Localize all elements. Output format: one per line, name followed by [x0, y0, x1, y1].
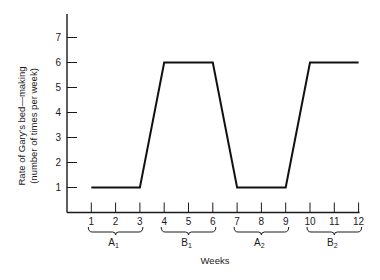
x-axis-title: Weeks	[201, 255, 230, 266]
x-tick-label: 6	[210, 216, 216, 227]
series-polyline	[91, 63, 358, 188]
y-axis-title-line2: (number of times per week)	[28, 68, 39, 184]
y-tick-label: 6	[55, 57, 61, 68]
phase-brace	[234, 227, 289, 235]
x-tick-label: 3	[137, 216, 143, 227]
x-tick-label: 7	[234, 216, 240, 227]
phase-brace	[307, 227, 362, 235]
x-tick-label: 11	[329, 216, 340, 227]
x-tick-label: 1	[89, 216, 95, 227]
abab-line-chart: 1234567 123456789101112 A1B1A2B2 Weeks R…	[0, 0, 380, 280]
y-tick-label: 3	[55, 132, 61, 143]
y-tick-label: 7	[55, 32, 61, 43]
phase-label: A1	[108, 237, 119, 249]
x-tick-label: 2	[113, 216, 119, 227]
x-axis: 123456789101112	[67, 203, 365, 227]
x-tick-label: 9	[283, 216, 289, 227]
phase-brackets: A1B1A2B2	[88, 227, 361, 249]
y-tick-label: 5	[55, 82, 61, 93]
x-tick-label: 12	[353, 216, 365, 227]
x-tick-label: 10	[304, 216, 316, 227]
phase-brace	[88, 227, 143, 235]
phase-label: B2	[327, 237, 338, 249]
y-axis-title-line1: Rate of Gary's bed—making	[16, 66, 27, 185]
data-series-line	[91, 63, 358, 188]
phase-label: A2	[254, 237, 265, 249]
y-tick-label: 1	[55, 182, 61, 193]
x-tick-label: 5	[186, 216, 192, 227]
x-tick-label: 8	[259, 216, 265, 227]
y-axis: 1234567	[55, 14, 77, 213]
phase-brace	[161, 227, 216, 235]
x-tick-label: 4	[161, 216, 167, 227]
y-tick-label: 4	[55, 107, 61, 118]
phase-label: B1	[181, 237, 192, 249]
y-tick-label: 2	[55, 157, 61, 168]
